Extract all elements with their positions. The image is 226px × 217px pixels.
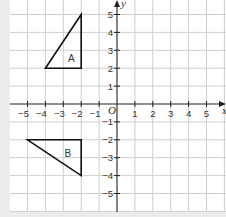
y-tick-label: −1 [102,116,113,127]
x-tick-label: 1 [132,108,137,119]
grid-panel [10,0,226,212]
x-tick-label: −4 [36,108,47,119]
y-tick-label: −4 [102,170,113,181]
y-tick-label: 1 [108,81,113,92]
coordinate-grid: xyO−5−4−3−2−11234554321−1−2−3−4−5AB [0,0,226,217]
origin-label: O [108,104,116,116]
x-tick-label: 3 [168,108,173,119]
y-tick-label: −3 [102,152,113,163]
y-tick-label: −5 [102,188,113,199]
x-tick-label: −5 [18,108,29,119]
y-tick-label: −2 [102,134,113,145]
x-tick-label: −1 [90,108,101,119]
x-tick-label: −3 [54,108,65,119]
y-axis-label: y [120,0,126,9]
x-tick-label: 4 [186,108,191,119]
x-tick-label: −2 [72,108,83,119]
y-tick-label: 2 [108,63,113,74]
x-tick-label: 2 [150,108,155,119]
y-tick-label: 5 [108,9,113,20]
y-tick-label: 3 [108,45,113,56]
x-tick-label: 5 [204,108,209,119]
triangle-a-label: A [68,53,75,64]
y-tick-label: 4 [108,27,113,38]
x-axis-label: x [221,104,226,116]
triangle-b-label: B [64,148,71,159]
